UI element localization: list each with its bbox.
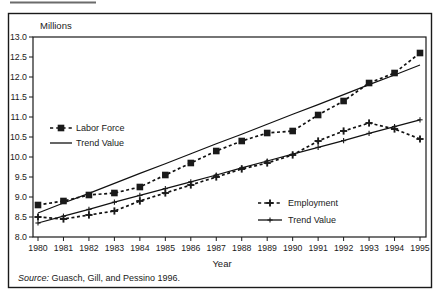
- figure-page: Millions8.08.59.09.510.010.511.011.512.0…: [0, 0, 438, 291]
- square-marker: [111, 190, 118, 197]
- y-axis-tick-label: 10.0: [10, 152, 27, 162]
- chart-svg: Millions8.08.59.09.510.010.511.011.512.0…: [0, 0, 438, 291]
- square-marker: [238, 138, 245, 145]
- legend-label-employment-trend: Trend Value: [288, 215, 336, 225]
- x-axis-tick-label: 1993: [359, 243, 378, 253]
- y-axis-tick-label: 10.5: [10, 132, 27, 142]
- y-axis-tick-label: 8.5: [15, 212, 27, 222]
- legend-label-labor-force-trend: Trend Value: [76, 138, 124, 148]
- y-axis-tick-label: 13.0: [10, 32, 27, 42]
- y-axis-tick-label: 11.0: [11, 112, 28, 122]
- x-axis-tick-label: 1988: [232, 243, 251, 253]
- y-axis-tick-label: 12.5: [10, 52, 27, 62]
- y-axis-unit-label: Millions: [40, 20, 72, 31]
- y-axis-tick-label: 9.0: [15, 192, 27, 202]
- square-marker: [213, 148, 220, 155]
- x-axis-tick-label: 1984: [130, 243, 149, 253]
- square-marker: [137, 184, 144, 191]
- x-axis-tick-label: 1989: [258, 243, 277, 253]
- legend-label-employment: Employment: [288, 198, 339, 208]
- x-axis-tick-label: 1990: [283, 243, 302, 253]
- x-axis-tick-label: 1992: [334, 243, 353, 253]
- x-axis-tick-label: 1981: [54, 243, 73, 253]
- legend-label-labor-force: Labor Force: [76, 123, 125, 133]
- y-axis-tick-label: 12.0: [10, 72, 27, 82]
- square-marker: [264, 130, 271, 137]
- square-marker: [60, 198, 67, 205]
- square-marker: [188, 160, 195, 167]
- x-axis-tick-label: 1983: [105, 243, 124, 253]
- square-marker: [315, 112, 322, 119]
- y-axis-tick-label: 9.5: [15, 172, 27, 182]
- square-marker: [391, 70, 398, 77]
- square-marker: [58, 125, 65, 132]
- x-axis-tick-label: 1980: [28, 243, 47, 253]
- square-marker: [340, 98, 347, 105]
- y-axis-tick-label: 11.5: [11, 92, 28, 102]
- x-axis-title: Year: [212, 258, 231, 269]
- y-axis-tick-label: 8.0: [15, 232, 27, 242]
- labor-market-chart: Millions8.08.59.09.510.010.511.011.512.0…: [0, 0, 438, 291]
- x-axis-tick-label: 1982: [79, 243, 98, 253]
- x-axis-tick-label: 1995: [410, 243, 429, 253]
- x-axis-tick-label: 1987: [207, 243, 226, 253]
- source-note: Source: Guasch, Gill, and Pessino 1996.: [18, 273, 180, 283]
- source-note-prefix: Source:: [18, 273, 50, 283]
- square-marker: [162, 172, 169, 179]
- square-marker: [417, 50, 424, 57]
- square-marker: [289, 128, 296, 135]
- x-axis-tick-label: 1994: [385, 243, 404, 253]
- square-marker: [86, 192, 93, 199]
- x-axis-tick-label: 1985: [156, 243, 175, 253]
- square-marker: [366, 80, 373, 87]
- x-axis-tick-label: 1986: [181, 243, 200, 253]
- source-note-text: Guasch, Gill, and Pessino 1996.: [49, 273, 180, 283]
- x-axis-tick-label: 1991: [308, 243, 327, 253]
- square-marker: [35, 202, 42, 209]
